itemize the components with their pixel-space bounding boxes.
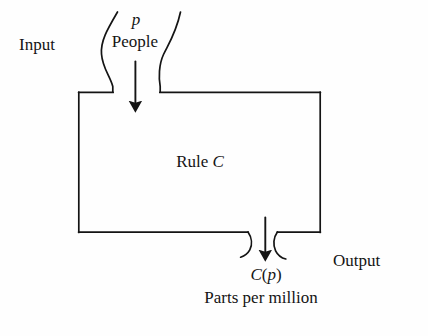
diagram-canvas: Input p People Rule C C(p) Parts per mil… <box>0 0 428 336</box>
output-side-label: Output <box>333 252 380 269</box>
input-side-label: Input <box>19 36 55 53</box>
output-argument: p <box>267 265 276 284</box>
machine-rule-label: Rule C <box>176 153 224 170</box>
output-variable-label: C(p) <box>250 266 281 283</box>
input-units-label: People <box>112 33 158 50</box>
output-function-name: C <box>250 265 261 284</box>
input-funnel-right-wall <box>159 12 180 92</box>
input-funnel-left-wall <box>101 12 117 92</box>
output-funnel-right-wall <box>274 232 286 259</box>
output-units-label: Parts per million <box>204 289 317 306</box>
input-variable-label: p <box>132 11 141 28</box>
machine-rule-variable: C <box>213 152 224 171</box>
machine-rule-prefix: Rule <box>176 152 208 171</box>
output-close-paren: ) <box>276 265 282 284</box>
output-funnel-left-wall <box>241 232 252 257</box>
